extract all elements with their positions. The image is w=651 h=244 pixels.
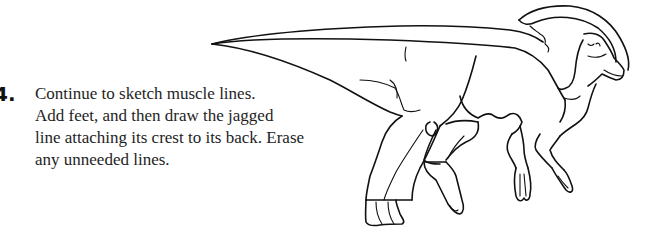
hip-line xyxy=(440,56,476,126)
chest-line xyxy=(560,100,565,122)
neck-muscle-line xyxy=(564,96,580,99)
hind-toe-line xyxy=(376,202,382,224)
hind-toe-line-2 xyxy=(388,202,394,224)
crest-inner xyxy=(519,17,616,62)
knee-bump xyxy=(426,122,438,136)
far-leg-back xyxy=(446,122,479,160)
hind-foot xyxy=(366,200,404,226)
far-toe-line xyxy=(450,206,458,211)
finger-lines xyxy=(520,174,526,196)
neck-front xyxy=(558,40,583,90)
belly-line xyxy=(460,96,522,134)
arm-near-upper xyxy=(507,134,516,168)
hind-leg-back xyxy=(412,126,440,200)
thigh-muscle-line-2 xyxy=(390,80,397,98)
hand-far xyxy=(552,168,573,192)
hand-near xyxy=(515,168,531,201)
far-leg-upper xyxy=(446,121,478,124)
arm-far-lower xyxy=(550,136,564,170)
tail-inner-line xyxy=(212,39,565,100)
eye-detail xyxy=(588,43,600,46)
far-foot xyxy=(424,162,463,214)
cheek-line xyxy=(588,54,606,57)
head-outline xyxy=(584,33,624,86)
hind-leg-front xyxy=(366,116,402,200)
back-muscle-line xyxy=(405,47,406,61)
tail-top-line xyxy=(212,26,543,44)
mouth-line xyxy=(604,70,622,76)
thigh-muscle-line xyxy=(360,80,420,112)
hind-leg-muscle xyxy=(384,130,423,200)
far-leg-front xyxy=(424,130,440,164)
tail-underside-line xyxy=(212,44,402,116)
arm-near-lower xyxy=(520,126,528,168)
dinosaur-sketch-icon xyxy=(0,0,651,244)
